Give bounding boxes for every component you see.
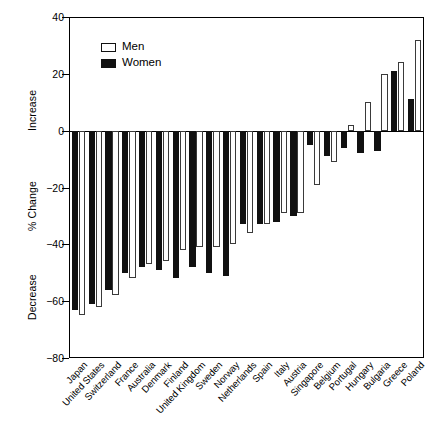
bar-men[interactable] <box>331 131 337 162</box>
y-axis-tick-label: −60 <box>24 296 64 307</box>
y-axis-tick-label: −40 <box>24 239 64 250</box>
bar-group[interactable] <box>341 18 354 357</box>
bar-group[interactable] <box>173 18 186 357</box>
bar-women[interactable] <box>341 131 347 148</box>
bar-group[interactable] <box>273 18 286 357</box>
bar-women[interactable] <box>173 131 179 279</box>
x-axis-labels: JapanUnited StatesSwitzerlandFranceAustr… <box>70 360 423 447</box>
bar-women[interactable] <box>374 131 380 151</box>
bar-men[interactable] <box>365 102 371 130</box>
bar-men[interactable] <box>281 131 287 213</box>
legend-item-women: Women <box>101 56 161 70</box>
bar-men[interactable] <box>297 131 303 213</box>
legend-label-men: Men <box>122 41 144 53</box>
bar-women[interactable] <box>240 131 246 225</box>
bar-men[interactable] <box>415 40 421 131</box>
bar-women[interactable] <box>72 131 78 310</box>
bar-women[interactable] <box>307 131 313 145</box>
bar-women[interactable] <box>357 131 363 154</box>
bar-women[interactable] <box>324 131 330 157</box>
bar-men[interactable] <box>146 131 152 265</box>
y-axis-tick-label: 20 <box>24 68 64 79</box>
y-axis-tick-label: −20 <box>24 182 64 193</box>
bar-men[interactable] <box>180 131 186 250</box>
bar-men[interactable] <box>196 131 202 248</box>
legend-item-men: Men <box>101 40 161 54</box>
bar-men[interactable] <box>381 74 387 131</box>
bar-group[interactable] <box>257 18 270 357</box>
bar-group[interactable] <box>374 18 387 357</box>
bar-group[interactable] <box>391 18 404 357</box>
bar-women[interactable] <box>391 71 397 131</box>
bar-women[interactable] <box>139 131 145 267</box>
y-axis-tick-label: 0 <box>24 125 64 136</box>
bar-women[interactable] <box>257 131 263 225</box>
bar-men[interactable] <box>348 125 354 131</box>
bar-men[interactable] <box>398 62 404 130</box>
bar-group[interactable] <box>240 18 253 357</box>
bar-men[interactable] <box>163 131 169 262</box>
bar-men[interactable] <box>213 131 219 248</box>
bar-women[interactable] <box>156 131 162 270</box>
bar-women[interactable] <box>105 131 111 290</box>
bar-group[interactable] <box>307 18 320 357</box>
bar-men[interactable] <box>112 131 118 296</box>
bar-women[interactable] <box>408 99 414 130</box>
chart-figure: Increase % Change Decrease 40200−20−40−6… <box>0 0 436 447</box>
bar-women[interactable] <box>273 131 279 222</box>
bar-women[interactable] <box>122 131 128 273</box>
bar-group[interactable] <box>206 18 219 357</box>
bar-women[interactable] <box>89 131 95 304</box>
bar-group[interactable] <box>290 18 303 357</box>
bar-group[interactable] <box>89 18 102 357</box>
bar-men[interactable] <box>79 131 85 316</box>
bar-group[interactable] <box>324 18 337 357</box>
bar-men[interactable] <box>247 131 253 233</box>
men-swatch-icon <box>101 43 116 52</box>
bar-group[interactable] <box>189 18 202 357</box>
bar-group[interactable] <box>357 18 370 357</box>
legend: Men Women <box>101 40 161 72</box>
bar-group[interactable] <box>72 18 85 357</box>
bar-group[interactable] <box>223 18 236 357</box>
bar-women[interactable] <box>189 131 195 267</box>
bar-women[interactable] <box>223 131 229 276</box>
bar-women[interactable] <box>206 131 212 273</box>
bar-men[interactable] <box>314 131 320 185</box>
y-axis-tick-label: 40 <box>24 12 64 23</box>
bar-women[interactable] <box>290 131 296 216</box>
y-axis-tick-label: −80 <box>24 353 64 364</box>
women-swatch-icon <box>101 59 116 68</box>
bar-men[interactable] <box>96 131 102 307</box>
bar-men[interactable] <box>264 131 270 225</box>
legend-label-women: Women <box>122 57 161 69</box>
bar-men[interactable] <box>129 131 135 279</box>
bar-group[interactable] <box>408 18 421 357</box>
bar-men[interactable] <box>230 131 236 245</box>
